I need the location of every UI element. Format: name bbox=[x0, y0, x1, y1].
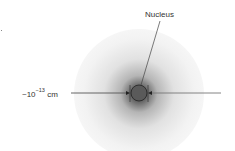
atom-diagram: Nucleus ~10−13 cm bbox=[0, 0, 235, 151]
scale-unit: cm bbox=[47, 90, 58, 99]
leader-line bbox=[141, 21, 160, 85]
nucleus-circle bbox=[131, 85, 147, 101]
diagram-lines bbox=[0, 0, 235, 151]
scale-exponent: −13 bbox=[36, 87, 45, 93]
scale-label: ~10−13 cm bbox=[22, 89, 58, 99]
arrow-left-icon bbox=[148, 91, 152, 95]
scale-prefix: ~10 bbox=[22, 90, 36, 99]
arrow-right-icon bbox=[126, 91, 130, 95]
nucleus-label-text: Nucleus bbox=[145, 10, 174, 19]
nucleus-label: Nucleus bbox=[145, 11, 174, 19]
